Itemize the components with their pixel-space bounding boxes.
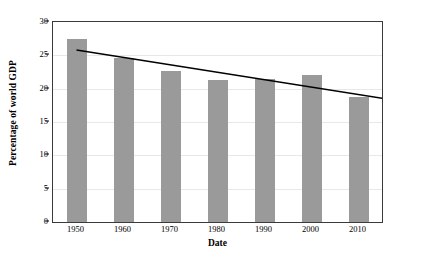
y-tick-mark [45, 187, 49, 188]
y-axis-ticks: 051015202530 [20, 0, 48, 262]
x-tick-label: 1970 [161, 224, 178, 234]
y-tick-mark [45, 54, 49, 55]
y-axis-title-text: Percentage of world GDP [8, 60, 18, 166]
x-tick-label: 2000 [302, 224, 319, 234]
chart-figure: Percentage of world GDP 051015202530 195… [0, 0, 434, 262]
x-tick-label: 1990 [255, 224, 272, 234]
trend-line [53, 22, 382, 222]
y-tick-mark [45, 87, 49, 88]
x-tick-label: 1980 [208, 224, 225, 234]
x-axis-title: Date [52, 238, 383, 248]
plot-area [52, 21, 383, 223]
x-tick-label: 2010 [349, 224, 366, 234]
y-tick-mark [45, 154, 49, 155]
y-tick-mark [45, 221, 49, 222]
x-tick-label: 1960 [114, 224, 131, 234]
y-tick-mark [45, 121, 49, 122]
y-tick-mark [45, 21, 49, 22]
trend-line-segment [77, 50, 384, 99]
x-axis-ticks: 1950196019701980199020002010 [52, 222, 383, 238]
x-tick-label: 1950 [67, 224, 84, 234]
